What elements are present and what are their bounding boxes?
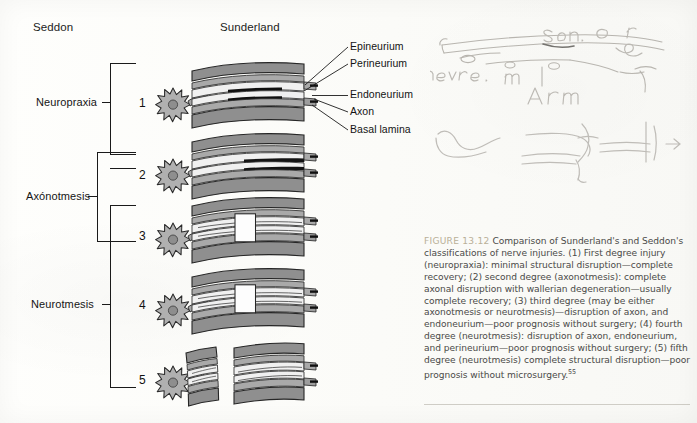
bracket-neurotmesis-stem xyxy=(102,304,111,305)
nerve-row-degree-2 xyxy=(156,134,318,199)
anatomy-label-endoneurium: Endoneurium xyxy=(350,88,413,100)
bracket-axonotmesis-top xyxy=(97,152,136,153)
nerve-row-degree-1 xyxy=(156,63,318,128)
bracket-degree2-tick xyxy=(110,168,136,169)
anatomy-label-perineurium: Perineurium xyxy=(350,57,407,69)
anatomy-label-basal-lamina: Basal lamina xyxy=(350,123,411,135)
seddon-label-axonotmesis: Axónotmesis xyxy=(26,190,90,202)
figure-caption-text: Comparison of Sunderland's and Seddon's … xyxy=(424,236,690,380)
seddon-label-neuropraxia: Neuropraxia xyxy=(36,96,97,108)
bracket-neurotmesis-bottom xyxy=(110,387,136,388)
column-header-seddon: Seddon xyxy=(33,21,73,33)
bracket-neuropraxia-stem xyxy=(102,102,111,103)
figure-caption-reference: 55 xyxy=(568,368,576,376)
nerve-row-degree-4 xyxy=(156,269,318,334)
degree-number-5: 5 xyxy=(139,373,146,387)
seddon-label-neurotmesis: Neurotmesis xyxy=(31,298,94,310)
figure-number: FIGURE 13.12 xyxy=(424,236,490,246)
anatomy-label-epineurium: Epineurium xyxy=(350,40,404,52)
bracket-neuropraxia-bottom xyxy=(110,154,136,155)
bracket-neurotmesis-spine xyxy=(110,205,111,388)
column-header-sunderland: Sunderland xyxy=(220,21,280,33)
nerve-row-degree-5 xyxy=(156,343,318,406)
handwritten-pencil-annotations xyxy=(430,14,694,236)
degree-number-3: 3 xyxy=(139,229,146,243)
anatomy-leader-lines xyxy=(304,47,348,130)
bracket-neuropraxia-top xyxy=(110,63,136,64)
degree-number-1: 1 xyxy=(139,96,146,110)
bracket-neuropraxia-spine xyxy=(110,63,111,155)
bracket-axonotmesis-bottom xyxy=(97,241,136,242)
bracket-axonotmesis-stem xyxy=(88,196,98,197)
caption-divider xyxy=(424,404,690,405)
bracket-neurotmesis-top xyxy=(110,205,136,206)
degree-number-2: 2 xyxy=(139,168,146,182)
anatomy-label-axon: Axon xyxy=(350,105,374,117)
degree-number-4: 4 xyxy=(139,298,146,312)
figure-page: Seddon Sunderland Neuropraxia Axónotmesi… xyxy=(0,0,697,423)
nerve-row-degree-3 xyxy=(156,198,318,263)
figure-caption-block: FIGURE 13.12 Comparison of Sunderland's … xyxy=(424,236,690,382)
